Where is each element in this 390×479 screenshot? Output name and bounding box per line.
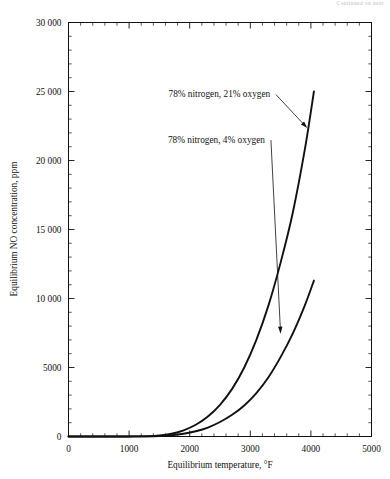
chart-figure: Continued on next 010002000300040005000 … xyxy=(0,0,390,479)
curve-4-percent-oxygen xyxy=(69,281,314,437)
x-tick-label: 2000 xyxy=(180,444,199,454)
y-tick-label: 15 000 xyxy=(36,225,62,235)
annotation-leader-1 xyxy=(271,140,280,328)
y-tick-label: 0 xyxy=(57,432,62,442)
annotation-leader-0 xyxy=(276,95,304,125)
y-tick-label: 5000 xyxy=(43,363,62,373)
plot-frame xyxy=(69,23,372,437)
x-tick-label: 3000 xyxy=(241,444,260,454)
x-tick-label: 5000 xyxy=(362,444,381,454)
x-axis-minor-ticks xyxy=(81,23,360,437)
y-tick-label: 25 000 xyxy=(36,87,62,97)
x-axis-title: Equilibrium temperature, °F xyxy=(167,460,272,470)
y-axis-tick-labels: 0500010 00015 00020 00025 00030 000 xyxy=(36,18,62,442)
curve-annotations: 78% nitrogen, 21% oxygen78% nitrogen, 4%… xyxy=(168,89,307,334)
equilibrium-no-concentration-chart: 010002000300040005000 0500010 00015 0002… xyxy=(0,0,390,479)
y-tick-label: 20 000 xyxy=(36,156,62,166)
annotation-label-0: 78% nitrogen, 21% oxygen xyxy=(168,89,270,99)
y-axis-major-ticks xyxy=(69,23,372,437)
x-tick-label: 0 xyxy=(66,444,71,454)
y-tick-label: 10 000 xyxy=(36,294,62,304)
x-tick-label: 4000 xyxy=(302,444,321,454)
y-axis-title: Equilibrium NO concentration, ppm xyxy=(9,161,19,297)
x-tick-label: 1000 xyxy=(120,444,139,454)
annotation-arrowhead-1 xyxy=(278,327,282,334)
page-header-note: Continued on next xyxy=(337,0,384,6)
x-axis-major-ticks xyxy=(69,23,372,437)
y-tick-label: 30 000 xyxy=(36,18,62,28)
annotation-label-1: 78% nitrogen, 4% oxygen xyxy=(168,135,265,145)
x-axis-tick-labels: 010002000300040005000 xyxy=(66,444,381,454)
